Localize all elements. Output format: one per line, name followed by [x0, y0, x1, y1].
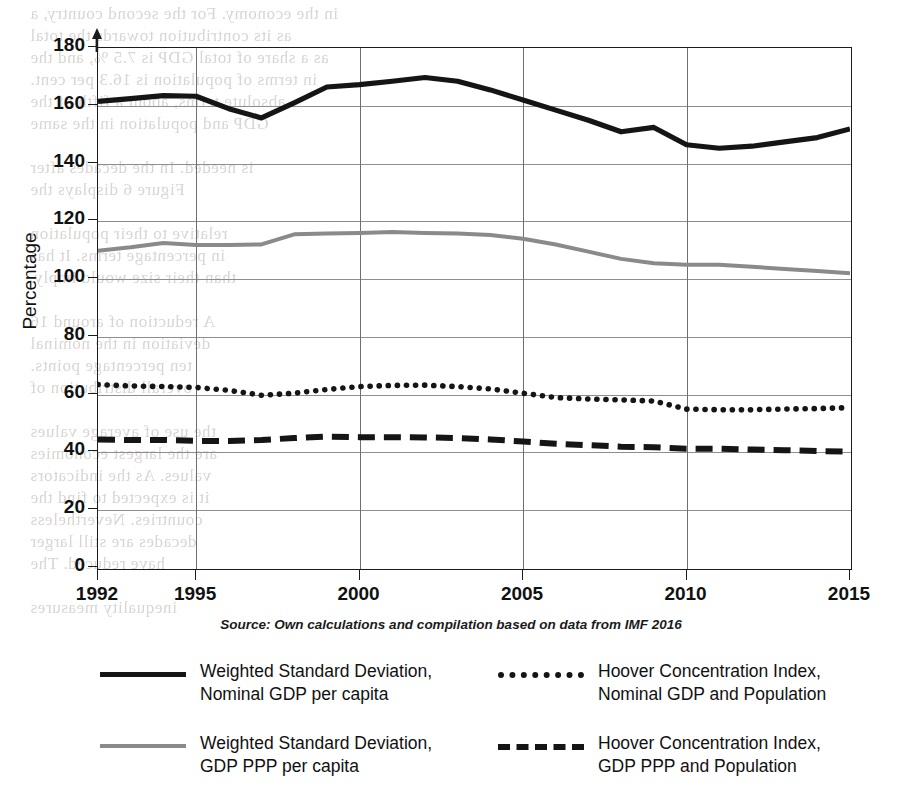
x-tick-label: 1995 — [174, 583, 216, 605]
y-tick-label: 80 — [15, 323, 85, 345]
legend-item-hci-ppp: Hoover Concentration Index,GDP PPP and P… — [498, 732, 821, 778]
y-tick-mark — [88, 335, 97, 336]
legend-swatch-solid-black — [100, 660, 186, 690]
y-tick-mark — [88, 46, 97, 47]
y-tick-label: 40 — [15, 438, 85, 460]
y-tick-label: 0 — [15, 554, 85, 576]
legend-label-hci-ppp: Hoover Concentration Index,GDP PPP and P… — [598, 732, 821, 778]
x-tick-mark — [195, 570, 196, 580]
legend-label-hci-nominal: Hoover Concentration Index,Nominal GDP a… — [598, 660, 826, 706]
y-tick-mark — [88, 566, 97, 567]
series-line-dotted — [98, 385, 850, 410]
x-tick-label: 1992 — [76, 583, 118, 605]
legend-line-sample — [498, 672, 584, 678]
legend-line-sample — [498, 744, 584, 750]
legend-swatch-dotted — [498, 660, 584, 690]
legend-label-line1: Hoover Concentration Index, — [598, 660, 826, 683]
legend-line-sample — [100, 744, 186, 748]
legend-label-line2: GDP PPP and Population — [598, 755, 821, 778]
legend-label-wsd-nominal: Weighted Standard Deviation,Nominal GDP … — [200, 660, 432, 706]
legend-label-line1: Weighted Standard Deviation, — [200, 660, 432, 683]
legend-item-wsd-ppp: Weighted Standard Deviation,GDP PPP per … — [100, 732, 432, 778]
legend-item-wsd-nominal: Weighted Standard Deviation,Nominal GDP … — [100, 660, 432, 706]
y-tick-label: 140 — [15, 150, 85, 172]
legend-label-line1: Hoover Concentration Index, — [598, 732, 821, 755]
source-note: Source: Own calculations and compilation… — [0, 617, 902, 632]
x-tick-mark — [97, 570, 98, 580]
y-axis-tick-labels: 020406080100120140160180 — [0, 0, 85, 640]
legend-line-sample — [100, 672, 186, 677]
legend-label-line2: GDP PPP per capita — [200, 755, 432, 778]
x-tick-mark — [522, 570, 523, 580]
legend-swatch-dashed — [498, 732, 584, 762]
y-tick-mark — [88, 219, 97, 220]
chart-legend: Weighted Standard Deviation,Nominal GDP … — [100, 660, 890, 800]
x-tick-mark — [359, 570, 360, 580]
series-line-dashed — [98, 437, 850, 452]
chart-series-layer — [98, 48, 850, 568]
x-tick-label: 2000 — [337, 583, 379, 605]
chart-plot-area — [97, 47, 852, 570]
series-line-solid-black — [98, 77, 850, 148]
y-tick-label: 100 — [15, 265, 85, 287]
figure-page: in the economy. For the second country, … — [0, 0, 902, 808]
x-tick-mark — [686, 570, 687, 580]
y-tick-mark — [88, 104, 97, 105]
legend-label-wsd-ppp: Weighted Standard Deviation,GDP PPP per … — [200, 732, 432, 778]
legend-item-hci-nominal: Hoover Concentration Index,Nominal GDP a… — [498, 660, 826, 706]
y-tick-mark — [88, 393, 97, 394]
y-tick-mark — [88, 277, 97, 278]
x-tick-label: 2015 — [828, 583, 870, 605]
legend-label-line2: Nominal GDP and Population — [598, 683, 826, 706]
legend-label-line1: Weighted Standard Deviation, — [200, 732, 432, 755]
y-tick-mark — [88, 162, 97, 163]
series-line-solid-grey — [98, 232, 850, 273]
x-tick-label: 2010 — [664, 583, 706, 605]
x-tick-label: 2005 — [501, 583, 543, 605]
legend-swatch-solid-grey — [100, 732, 186, 762]
y-tick-label: 120 — [15, 207, 85, 229]
y-tick-label: 160 — [15, 92, 85, 114]
y-tick-label: 180 — [15, 34, 85, 56]
y-tick-label: 20 — [15, 496, 85, 518]
y-tick-mark — [88, 508, 97, 509]
y-tick-label: 60 — [15, 381, 85, 403]
legend-label-line2: Nominal GDP per capita — [200, 683, 432, 706]
y-tick-mark — [88, 450, 97, 451]
x-tick-mark — [849, 570, 850, 580]
